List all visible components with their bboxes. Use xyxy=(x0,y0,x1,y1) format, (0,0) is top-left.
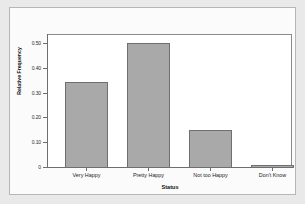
bar-not-too-happy[interactable] xyxy=(189,130,232,168)
y-tick-mark xyxy=(43,117,47,118)
x-axis-title: Status xyxy=(47,184,293,190)
y-tick-text: 0.10 xyxy=(32,139,41,145)
y-tick-mark xyxy=(43,167,47,168)
y-tick-mark xyxy=(43,43,47,44)
y-tick-text: 0.30 xyxy=(32,90,41,96)
y-tick-label-5: 0.50 xyxy=(20,40,41,47)
y-tick-label-0: 0 xyxy=(20,164,41,171)
y-axis-line xyxy=(47,34,48,168)
y-tick-label-4: 0.40 xyxy=(20,65,41,72)
y-tick-mark xyxy=(43,142,47,143)
x-tick-label-not-too-happy: Not too Happy xyxy=(180,172,241,178)
y-tick-mark xyxy=(43,68,47,69)
y-tick-text: 0.20 xyxy=(32,114,41,120)
x-tick-mark xyxy=(148,168,149,171)
y-tick-label-1: 0.10 xyxy=(20,139,41,146)
x-tick-label-pretty-happy: Pretty Happy xyxy=(118,172,179,178)
chart-figure: 0 0.10 0.20 0.30 0.40 0.50 V xyxy=(0,0,305,204)
bar-very-happy[interactable] xyxy=(65,82,108,168)
y-tick-text: 0.50 xyxy=(32,40,41,46)
y-tick-text: 0.40 xyxy=(32,65,41,71)
y-tick-label-2: 0.20 xyxy=(20,114,41,121)
x-tick-mark xyxy=(272,168,273,171)
x-tick-mark xyxy=(86,168,87,171)
chart-panel: 0 0.10 0.20 0.30 0.40 0.50 V xyxy=(9,7,296,195)
y-tick-mark xyxy=(43,93,47,94)
y-axis-title: Relative Frequency xyxy=(16,36,22,106)
x-tick-label-very-happy: Very Happy xyxy=(56,172,117,178)
y-tick-text: 0 xyxy=(38,164,41,170)
bar-pretty-happy[interactable] xyxy=(127,43,170,168)
y-tick-label-3: 0.30 xyxy=(20,90,41,97)
x-tick-label-dont-know: Don't Know xyxy=(242,172,303,178)
x-tick-mark xyxy=(210,168,211,171)
